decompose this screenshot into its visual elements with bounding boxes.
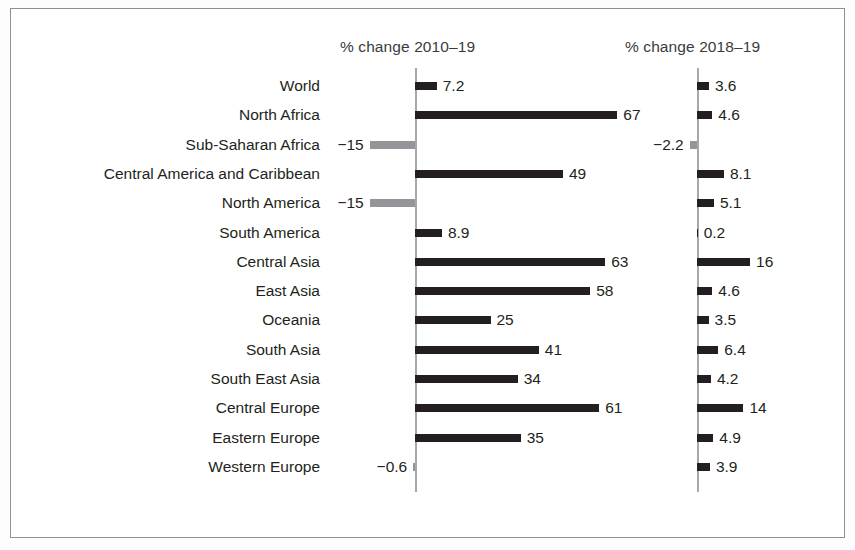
bar-panel-2	[697, 434, 713, 442]
value-label-panel-1: −0.6	[377, 457, 408, 477]
chart-row: Sub-Saharan Africa−15−2.2	[0, 135, 855, 164]
bar-panel-2	[697, 287, 712, 295]
value-label-panel-2: 4.6	[718, 281, 740, 301]
bar-panel-1	[415, 82, 437, 90]
bar-panel-2	[697, 346, 718, 354]
bar-panel-1	[370, 199, 415, 207]
value-label-panel-2: 5.1	[720, 193, 742, 213]
bar-panel-2	[697, 463, 710, 471]
value-label-panel-1: 34	[524, 369, 541, 389]
plot-area: % change 2010–19 % change 2018–19 World7…	[0, 0, 855, 550]
value-label-panel-1: 58	[596, 281, 613, 301]
bar-panel-1	[370, 141, 415, 149]
value-label-panel-2: 4.9	[719, 428, 741, 448]
category-label: East Asia	[255, 281, 320, 301]
category-label: South East Asia	[211, 369, 320, 389]
bar-panel-2	[697, 404, 743, 412]
bar-panel-1	[415, 316, 491, 324]
value-label-panel-2: 16	[756, 252, 773, 272]
value-label-panel-1: 49	[569, 164, 586, 184]
bar-panel-1	[415, 434, 521, 442]
bar-panel-2	[697, 170, 724, 178]
category-label: North Africa	[239, 105, 320, 125]
category-label: Central Asia	[236, 252, 320, 272]
value-label-panel-1: 8.9	[448, 223, 470, 243]
bar-panel-1	[415, 170, 563, 178]
category-label: World	[280, 76, 320, 96]
bar-panel-2	[690, 141, 697, 149]
value-label-panel-1: 67	[623, 105, 640, 125]
bar-panel-1	[413, 463, 415, 471]
value-label-panel-2: 4.6	[718, 105, 740, 125]
bar-panel-2	[697, 258, 750, 266]
value-label-panel-2: −2.2	[653, 135, 684, 155]
bar-panel-1	[415, 229, 442, 237]
value-label-panel-2: 3.9	[716, 457, 738, 477]
category-label: Western Europe	[208, 457, 320, 477]
chart-row: World7.23.6	[0, 76, 855, 105]
chart-row: Central America and Caribbean498.1	[0, 164, 855, 193]
bar-panel-1	[415, 258, 605, 266]
bar-panel-2	[697, 82, 709, 90]
chart-row: North Africa674.6	[0, 105, 855, 134]
value-label-panel-2: 14	[749, 398, 766, 418]
value-label-panel-2: 6.4	[724, 340, 746, 360]
category-label: Sub-Saharan Africa	[186, 135, 320, 155]
bar-panel-1	[415, 111, 617, 119]
bar-panel-1	[415, 375, 518, 383]
bar-panel-2	[697, 229, 698, 237]
chart-row: Central Asia6316	[0, 252, 855, 281]
category-label: Eastern Europe	[212, 428, 320, 448]
bar-panel-2	[697, 111, 712, 119]
value-label-panel-2: 3.6	[715, 76, 737, 96]
bar-panel-2	[697, 375, 711, 383]
bar-panel-1	[415, 404, 599, 412]
category-label: North America	[222, 193, 320, 213]
value-label-panel-1: 25	[497, 310, 514, 330]
value-label-panel-2: 3.5	[715, 310, 737, 330]
value-label-panel-1: 63	[611, 252, 628, 272]
value-label-panel-2: 8.1	[730, 164, 752, 184]
panel-2-header: % change 2018–19	[625, 38, 760, 56]
chart-row: Western Europe−0.63.9	[0, 457, 855, 486]
value-label-panel-1: 35	[527, 428, 544, 448]
category-label: Central Europe	[216, 398, 320, 418]
category-label: South Asia	[246, 340, 320, 360]
chart-row: Eastern Europe354.9	[0, 428, 855, 457]
chart-row: North America−155.1	[0, 193, 855, 222]
category-label: South America	[219, 223, 320, 243]
panel-1-header: % change 2010–19	[340, 38, 475, 56]
value-label-panel-1: 41	[545, 340, 562, 360]
figure-container: % change 2010–19 % change 2018–19 World7…	[0, 0, 855, 550]
category-label: Central America and Caribbean	[104, 164, 320, 184]
bar-panel-2	[697, 199, 714, 207]
value-label-panel-1: −15	[337, 135, 363, 155]
value-label-panel-2: 0.2	[704, 223, 726, 243]
chart-row: South America8.90.2	[0, 223, 855, 252]
category-label: Oceania	[262, 310, 320, 330]
bar-panel-1	[415, 346, 539, 354]
value-label-panel-1: −15	[337, 193, 363, 213]
value-label-panel-1: 7.2	[443, 76, 465, 96]
bar-panel-1	[415, 287, 590, 295]
value-label-panel-1: 61	[605, 398, 622, 418]
chart-row: Oceania253.5	[0, 310, 855, 339]
chart-row: Central Europe6114	[0, 398, 855, 427]
chart-row: South East Asia344.2	[0, 369, 855, 398]
value-label-panel-2: 4.2	[717, 369, 739, 389]
chart-row: East Asia584.6	[0, 281, 855, 310]
bar-panel-2	[697, 316, 709, 324]
chart-row: South Asia416.4	[0, 340, 855, 369]
